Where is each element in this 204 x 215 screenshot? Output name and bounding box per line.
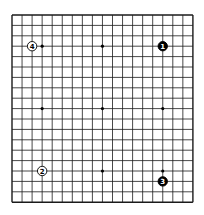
star-point-icon: [161, 107, 164, 110]
stone-black-1[interactable]: 1: [158, 42, 167, 51]
stone-white-4[interactable]: 4: [27, 42, 36, 51]
move-number: 4: [30, 43, 35, 51]
star-point-icon: [41, 107, 44, 110]
star-point-icon: [101, 45, 104, 48]
move-number: 3: [160, 178, 165, 186]
star-point-icon: [41, 45, 44, 48]
stone-black-3[interactable]: 3: [158, 177, 167, 186]
move-number: 1: [160, 43, 165, 51]
star-point-icon: [101, 169, 104, 172]
star-point-icon: [161, 169, 164, 172]
star-point-icon: [101, 107, 104, 110]
move-number: 2: [40, 168, 45, 176]
stone-white-2[interactable]: 2: [37, 166, 46, 175]
go-board[interactable]: 1234: [0, 0, 204, 215]
